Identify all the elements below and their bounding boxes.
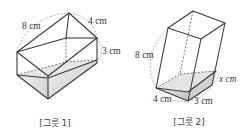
edge [156, 28, 168, 88]
label-4cm-1: 4 cm [88, 16, 107, 26]
label-3cm-1: 3 cm [102, 46, 121, 56]
top-face-2 [168, 11, 225, 39]
arc-3cm-1 [97, 38, 102, 62]
caption-2: [그릇 2] [173, 117, 205, 127]
hidden-edge [180, 11, 193, 74]
label-8cm-2: 8 cm [135, 50, 154, 60]
label-xcm-2: x cm [218, 74, 237, 84]
container-1: 8 cm 4 cm 3 cm [그릇 1] [17, 13, 121, 128]
inner-edge [66, 13, 69, 38]
diagram-canvas: 8 cm 4 cm 3 cm [그릇 1] 8 cm 4 cm [0, 0, 249, 136]
label-4cm-2: 4 cm [153, 94, 172, 104]
label-3cm-2: 3 cm [194, 96, 213, 106]
caption-1: [그릇 1] [39, 118, 71, 128]
inner-edge [17, 38, 66, 52]
container-2: 8 cm 4 cm 3 cm x cm [그릇 2] [135, 11, 237, 127]
label-8cm-1: 8 cm [22, 21, 41, 31]
